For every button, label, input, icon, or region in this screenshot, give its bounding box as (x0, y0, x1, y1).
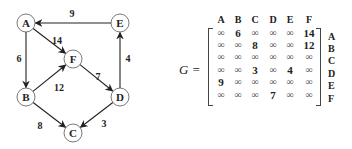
matrix-cell: ∞ (300, 51, 318, 63)
directed-graph: 9146127483 AEFBDC (0, 0, 150, 149)
matrix-cell: ∞ (264, 51, 282, 63)
row-header: C (328, 55, 335, 66)
arrow-icon (81, 102, 113, 127)
matrix-cell: ∞ (229, 39, 247, 51)
edge-weight-label: 9 (70, 8, 75, 19)
node-a: A (17, 14, 35, 32)
matrix-cell: ∞ (212, 39, 230, 51)
matrix-cell: ∞ (281, 89, 299, 101)
matrix-cell: ∞ (229, 76, 247, 88)
node-f: F (64, 50, 82, 68)
row-header: B (328, 43, 335, 54)
matrix-cell: ∞ (300, 64, 318, 76)
column-header: A (212, 14, 230, 25)
matrix-cell: ∞ (281, 39, 299, 51)
node-label: A (22, 17, 30, 29)
matrix-cell: ∞ (246, 89, 264, 101)
matrix-cell: ∞ (281, 51, 299, 63)
matrix-cell: ∞ (281, 76, 299, 88)
column-header: B (229, 14, 247, 25)
matrix-cell: ∞ (212, 51, 230, 63)
edge-d-to-c (81, 102, 113, 127)
row-header: F (328, 93, 334, 104)
matrix-cell: ∞ (264, 64, 282, 76)
node-b: B (17, 88, 35, 106)
row-header: A (328, 31, 335, 42)
adjacency-matrix: G = ABCDEF ABCDEF ∞6∞∞∞14∞∞8∞∞12∞∞∞∞∞∞∞∞… (150, 0, 352, 149)
edge-weight-label: 12 (54, 82, 64, 93)
matrix-cell: 3 (246, 64, 264, 76)
node-label: F (70, 53, 77, 65)
matrix-cell: ∞ (264, 27, 282, 39)
node-label: D (116, 91, 124, 103)
row-header: D (328, 68, 335, 79)
matrix-cell: ∞ (246, 27, 264, 39)
matrix-cell: ∞ (246, 76, 264, 88)
node-e: E (111, 14, 129, 32)
node-label: B (22, 91, 30, 103)
column-header: C (246, 14, 264, 25)
matrix-cell: ∞ (246, 51, 264, 63)
edge-weight-label: 3 (102, 118, 107, 129)
matrix-cell: 8 (246, 39, 264, 51)
matrix-cell: ∞ (229, 51, 247, 63)
node-d: D (111, 88, 129, 106)
matrix-cell: 12 (300, 39, 318, 51)
matrix-name-label: G = (179, 62, 200, 78)
matrix-cell: ∞ (212, 89, 230, 101)
row-header: E (328, 80, 335, 91)
matrix-cell: 7 (264, 89, 282, 101)
node-label: E (116, 17, 123, 29)
edge-weight-label: 7 (96, 71, 101, 82)
column-header: E (281, 14, 299, 25)
matrix-cell: ∞ (264, 76, 282, 88)
matrix-cell: ∞ (212, 64, 230, 76)
edge-weight-label: 8 (38, 120, 43, 131)
matrix-cell: 14 (300, 27, 318, 39)
matrix-cell: ∞ (281, 27, 299, 39)
node-c: C (64, 124, 82, 142)
edge-weight-label: 6 (17, 53, 22, 64)
matrix-cell: ∞ (212, 27, 230, 39)
matrix-cell: ∞ (264, 39, 282, 51)
column-header: D (264, 14, 282, 25)
edge-weight-label: 14 (52, 35, 62, 46)
matrix-cell: 9 (212, 76, 230, 88)
matrix-cell: ∞ (229, 64, 247, 76)
matrix-cell: 6 (229, 27, 247, 39)
matrix-cell: ∞ (300, 76, 318, 88)
node-label: C (69, 127, 77, 139)
edge-weight-label: 4 (126, 53, 131, 64)
matrix-cell: ∞ (300, 89, 318, 101)
matrix-cell: ∞ (229, 89, 247, 101)
matrix-cell: 4 (281, 64, 299, 76)
column-header: F (300, 14, 318, 25)
